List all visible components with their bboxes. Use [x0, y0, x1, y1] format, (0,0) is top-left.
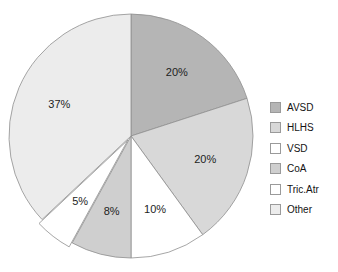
- pie-slice-label-coa: 8%: [104, 205, 120, 217]
- legend-swatch-avsd: [270, 102, 281, 113]
- legend-item-hlhs[interactable]: HLHS: [270, 118, 338, 139]
- legend-swatch-other: [270, 204, 281, 215]
- legend-label-coa: CoA: [287, 163, 306, 174]
- legend-label-hlhs: HLHS: [287, 122, 314, 133]
- legend-item-vsd[interactable]: VSD: [270, 138, 338, 159]
- pie-chart-plot-area: 20%20%10%8%5%37%: [0, 0, 262, 272]
- pie-slice-label-vsd: 10%: [144, 203, 166, 215]
- pie-chart-svg: 20%20%10%8%5%37%: [0, 0, 262, 272]
- legend-item-coa[interactable]: CoA: [270, 159, 338, 180]
- pie-slice-label-other: 37%: [48, 98, 70, 110]
- legend-swatch-vsd: [270, 143, 281, 154]
- legend-swatch-tric-atr: [270, 184, 281, 195]
- legend-item-tric-atr[interactable]: Tric.Atr: [270, 179, 338, 200]
- chart-legend: AVSDHLHSVSDCoATric.AtrOther: [270, 97, 338, 220]
- pie-slices-group: [9, 14, 253, 258]
- legend-item-avsd[interactable]: AVSD: [270, 97, 338, 118]
- legend-swatch-coa: [270, 163, 281, 174]
- legend-swatch-hlhs: [270, 122, 281, 133]
- legend-label-avsd: AVSD: [287, 102, 314, 113]
- pie-slice-label-avsd: 20%: [166, 66, 188, 78]
- pie-slice-label-hlhs: 20%: [194, 153, 216, 165]
- legend-label-other: Other: [287, 204, 312, 215]
- pie-slice-label-tric-atr: 5%: [72, 195, 88, 207]
- legend-item-other[interactable]: Other: [270, 200, 338, 221]
- pie-chart-figure: 20%20%10%8%5%37% AVSDHLHSVSDCoATric.AtrO…: [0, 0, 338, 272]
- legend-label-vsd: VSD: [287, 143, 308, 154]
- legend-label-tric-atr: Tric.Atr: [287, 184, 319, 195]
